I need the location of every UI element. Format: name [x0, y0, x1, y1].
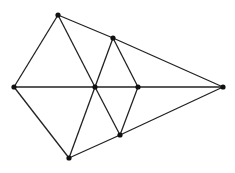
edge-A-B	[58, 15, 113, 38]
edge-B-D	[95, 38, 113, 87]
edge-C-A	[14, 15, 58, 87]
vertex-B	[110, 35, 115, 40]
geometric-graph-diagram	[0, 0, 235, 173]
vertex-D	[92, 84, 97, 89]
vertex-F	[220, 84, 225, 89]
vertex-G	[117, 132, 122, 137]
edge-B-F	[113, 38, 223, 87]
vertex-H	[66, 155, 71, 160]
vertex-A	[55, 12, 60, 17]
edge-A-D	[58, 15, 95, 87]
edge-C-H	[14, 87, 69, 158]
vertex-E	[135, 84, 140, 89]
edge-B-E	[113, 38, 138, 87]
edge-D-G	[95, 87, 120, 135]
vertex-C	[11, 84, 16, 89]
